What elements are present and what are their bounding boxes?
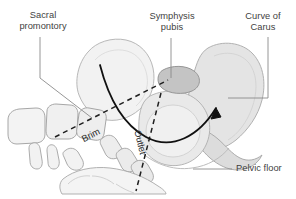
pelvis-diagram: Sacral promontory Symphysis pubis Curve …: [0, 0, 296, 199]
vertebra-body-1: [8, 108, 45, 144]
obturator-foramen-shape: [146, 105, 200, 157]
vertebra-body-2: [46, 104, 78, 139]
coccyx-fragment-1: [29, 143, 42, 169]
diagram-canvas: [0, 0, 296, 199]
coccyx-fragment-2: [47, 145, 59, 169]
coccyx-fragment-3: [63, 148, 83, 170]
symphysis-pubis-shape: [158, 66, 199, 93]
anatomy-group: [8, 39, 264, 194]
